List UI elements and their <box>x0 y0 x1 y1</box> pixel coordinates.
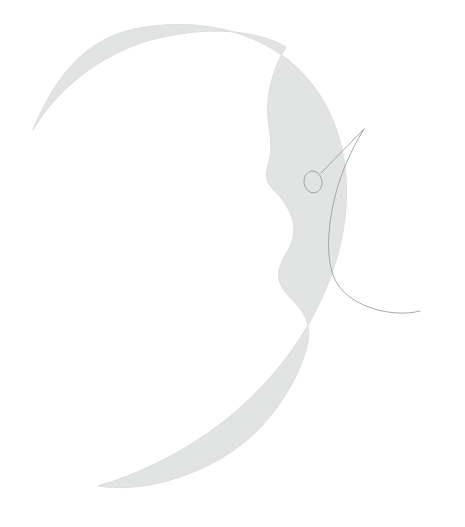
crescent-moon-illustration: Crescent Moon With Face Profile Light gr… <box>0 0 465 527</box>
illustration-canvas: Crescent Moon With Face Profile Light gr… <box>0 0 465 527</box>
